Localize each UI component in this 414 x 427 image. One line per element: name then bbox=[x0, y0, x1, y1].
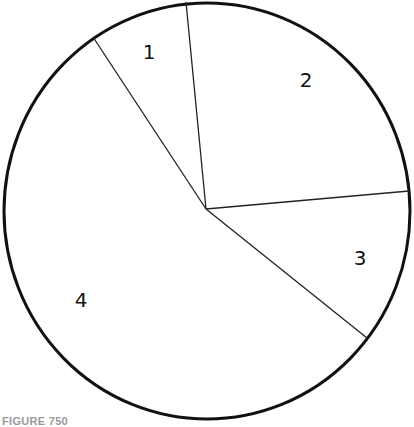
slice-label-2: 2 bbox=[300, 70, 313, 90]
figure-caption: FIGURE 750 bbox=[2, 415, 68, 427]
slice-label-4: 4 bbox=[75, 290, 88, 310]
slice-label-1: 1 bbox=[143, 42, 156, 62]
pie-chart bbox=[0, 0, 414, 427]
pie-outline bbox=[4, 3, 410, 419]
slice-label-3: 3 bbox=[354, 248, 367, 268]
